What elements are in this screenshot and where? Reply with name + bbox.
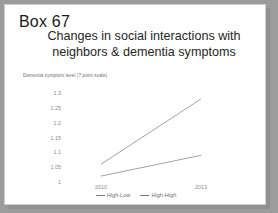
title-line-2: neighbors & dementia symptoms: [27, 45, 261, 61]
chart-legend: High-LowHigh-High: [5, 192, 266, 198]
legend-line-icon: [140, 195, 149, 196]
line-chart: Dementia symptom level (7 point scale) 1…: [5, 69, 266, 205]
page-title: Changes in social interactions with neig…: [27, 29, 261, 60]
legend-label: High-High: [151, 192, 176, 198]
title-line-1: Changes in social interactions with: [27, 29, 261, 45]
slide-frame: Box 67 Changes in social interactions wi…: [4, 4, 266, 205]
legend-line-icon: [96, 195, 105, 196]
frame-shadow-right: [266, 8, 270, 209]
frame-shadow-bottom: [8, 205, 270, 209]
legend-item[interactable]: High-Low: [96, 192, 131, 198]
legend-item[interactable]: High-High: [140, 192, 176, 198]
series-line: [101, 155, 201, 176]
legend-label: High-Low: [107, 192, 131, 198]
plot-lines: [5, 69, 266, 205]
series-line: [101, 99, 201, 164]
